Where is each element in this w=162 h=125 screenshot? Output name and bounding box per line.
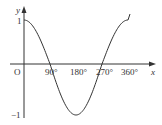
y-axis-label: y bbox=[15, 5, 20, 15]
x-tick-90: 90° bbox=[45, 67, 58, 77]
x-tick-180: 180° bbox=[70, 67, 88, 77]
y-axis-arrow-icon bbox=[22, 6, 27, 13]
x-tick-360: 360° bbox=[121, 67, 139, 77]
y-tick-neg1: −1 bbox=[11, 110, 21, 120]
x-axis-arrow-icon bbox=[149, 62, 156, 67]
x-tick-270: 270° bbox=[96, 67, 114, 77]
y-tick-1: 1 bbox=[17, 16, 22, 26]
x-axis-label: x bbox=[150, 67, 155, 77]
cosine-chart: y x O 1 −1 90° 180° 270° 360° bbox=[0, 0, 162, 125]
origin-label: O bbox=[14, 67, 21, 77]
